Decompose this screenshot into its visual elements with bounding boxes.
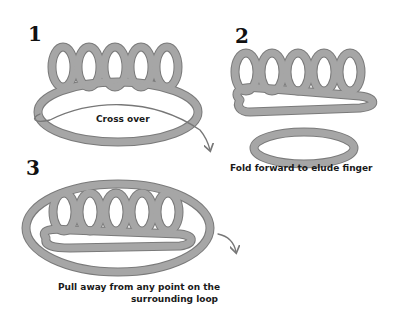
step-3-number: 3 [26,156,40,180]
step-2-number: 2 [235,24,249,48]
step-3-caption-line1: Pull away from any point on the [58,282,220,292]
step-1-rope [35,47,210,150]
step-1-caption: Cross over [96,114,150,124]
diagram-canvas [0,0,395,313]
step-3-caption-line2: surrounding loop [131,294,218,304]
step-2-caption: Fold forward to elude finger [230,163,373,173]
step-2-rope [235,53,373,164]
step-1-number: 1 [28,22,42,46]
pull-arrow [218,234,236,252]
step-3-rope [26,184,236,272]
